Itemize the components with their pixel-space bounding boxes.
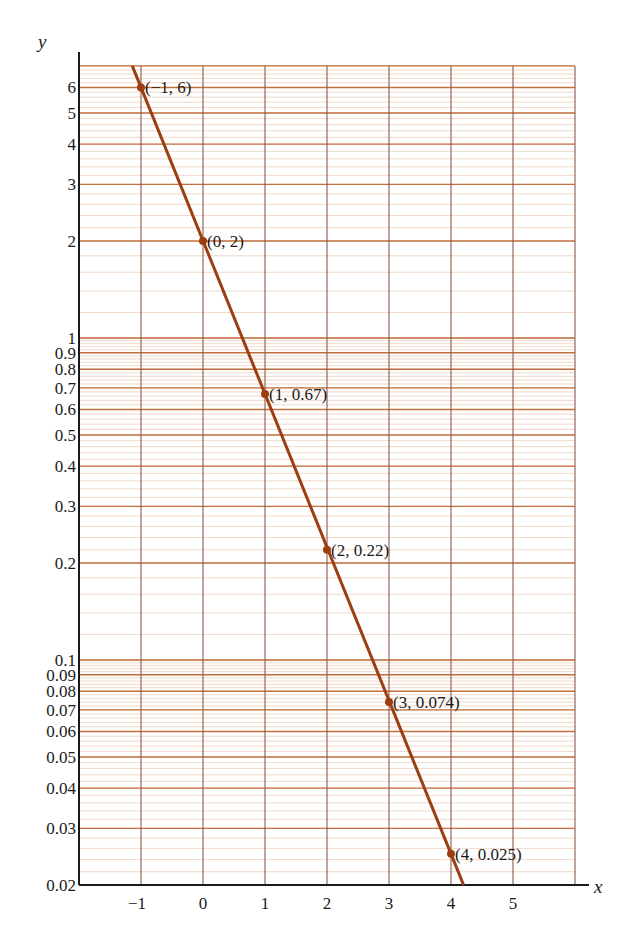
y-tick-label: 0.04 (46, 779, 76, 798)
y-tick-label: 0.6 (55, 400, 76, 419)
y-tick-label: 0.7 (55, 379, 77, 398)
y-tick-label: 0.8 (55, 360, 76, 379)
y-tick-label: 2 (68, 232, 77, 251)
y-tick-label: 5 (68, 104, 77, 123)
data-point (261, 390, 269, 398)
x-tick-labels: −1012345 (128, 894, 517, 913)
y-tick-label: 0.3 (55, 497, 76, 516)
x-tick-label: 0 (199, 894, 208, 913)
y-tick-label: 0.05 (46, 748, 76, 767)
y-tick-label: 3 (68, 175, 77, 194)
y-tick-label: 0.08 (46, 682, 76, 701)
y-tick-label: 1 (68, 329, 77, 348)
y-tick-labels: 0.020.030.040.050.060.070.080.090.10.20.… (46, 78, 76, 895)
y-tick-label: 0.07 (46, 701, 76, 720)
data-point (447, 850, 455, 858)
y-tick-label: 0.06 (46, 722, 76, 741)
y-tick-label: 0.03 (46, 819, 76, 838)
x-tick-label: 2 (323, 894, 332, 913)
data-point-label: (3, 0.074) (393, 693, 460, 712)
y-tick-label: 0.02 (46, 876, 76, 895)
y-tick-label: 4 (68, 135, 77, 154)
x-tick-label: −1 (128, 894, 146, 913)
data-point (199, 237, 207, 245)
y-tick-label: 0.2 (55, 554, 76, 573)
x-tick-label: 1 (261, 894, 270, 913)
vertical-gridlines (141, 66, 575, 885)
series-line (132, 66, 463, 885)
data-point-label: (2, 0.22) (331, 541, 389, 560)
y-tick-label: 6 (68, 78, 77, 97)
semilog-chart: 0.020.030.040.050.060.070.080.090.10.20.… (0, 0, 641, 937)
data-point (385, 698, 393, 706)
y-tick-label: 0.1 (55, 651, 76, 670)
y-tick-label: 0.5 (55, 426, 76, 445)
x-axis-label: x (593, 876, 603, 897)
data-point-label: (−1, 6) (145, 78, 191, 97)
x-tick-label: 3 (385, 894, 394, 913)
data-point-label: (0, 2) (207, 232, 244, 251)
data-point (323, 546, 331, 554)
x-tick-label: 5 (509, 894, 518, 913)
data-point (137, 83, 145, 91)
data-point-label: (1, 0.67) (269, 385, 327, 404)
y-axis-label: y (36, 31, 47, 52)
x-tick-label: 4 (447, 894, 456, 913)
data-point-label: (4, 0.025) (455, 845, 522, 864)
y-tick-label: 0.4 (55, 457, 77, 476)
